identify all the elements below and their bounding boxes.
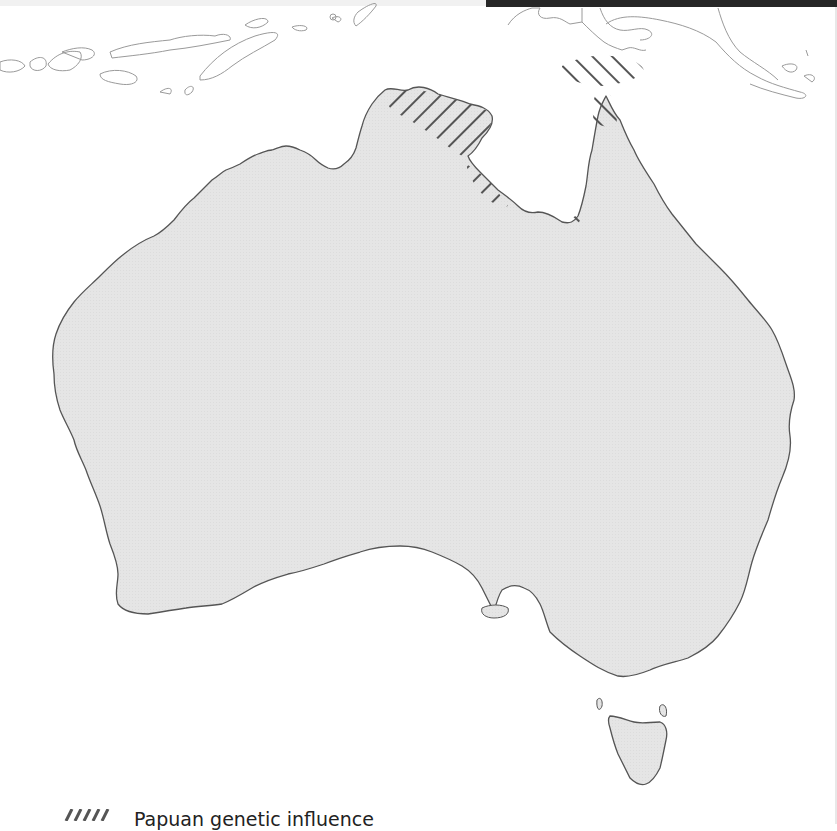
legend: Papuan genetic influence (64, 807, 374, 827)
lesser-sunda-islands (0, 4, 376, 95)
australia-mainland (53, 87, 795, 677)
hatch-cape-york (593, 92, 617, 127)
kangaroo-island (482, 605, 509, 618)
bass-strait-islands (597, 698, 667, 716)
legend-label: Papuan genetic influence (134, 807, 374, 831)
hatch-torres-strait (562, 55, 644, 86)
tasmania (609, 716, 667, 785)
hatch-swatch-icon (64, 809, 110, 821)
new-guinea (508, 8, 814, 98)
